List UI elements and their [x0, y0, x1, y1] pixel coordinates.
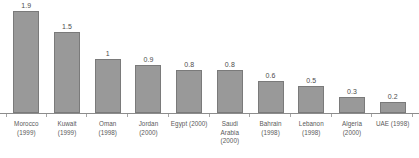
x-axis-category-label: Jordan(2000) [128, 120, 169, 158]
bar[interactable] [217, 70, 243, 113]
bar[interactable] [380, 102, 406, 113]
x-axis-tick [372, 114, 413, 118]
category-label-line: Egypt (2000) [170, 120, 209, 129]
plot-area: 1.91.510.90.80.80.60.50.30.2 [0, 0, 419, 113]
bar[interactable] [339, 97, 365, 113]
category-label-line: UAE (1998) [373, 120, 412, 129]
category-label-line: Lebanon [292, 120, 331, 129]
bar-value-label: 0.3 [347, 87, 357, 96]
bar-value-label: 0.5 [306, 76, 316, 85]
bar-slot: 0.9 [128, 0, 169, 113]
category-label-line: Algeria [333, 120, 372, 129]
bar-value-label: 1.9 [21, 1, 31, 10]
bar-value-label: 0.6 [266, 71, 276, 80]
bar-slot: 0.2 [372, 0, 413, 113]
bar-slot: 0.8 [169, 0, 210, 113]
bar-slot: 1 [87, 0, 128, 113]
bar-value-label: 1 [106, 49, 110, 58]
bar[interactable] [176, 70, 202, 113]
bar-value-label: 0.2 [388, 92, 398, 101]
bar[interactable] [95, 59, 121, 113]
x-axis-category-label: Bahrain(1998) [250, 120, 291, 158]
x-axis-tick [332, 114, 373, 118]
category-label-line: Saudi [211, 120, 250, 129]
category-label-line: (2000) [129, 129, 168, 138]
bar[interactable] [13, 11, 39, 113]
bar-slot: 0.3 [332, 0, 373, 113]
x-axis-category-label: Lebanon(1998) [291, 120, 332, 158]
x-axis-category-label: Algeria(2000) [332, 120, 373, 158]
bar-value-label: 0.8 [225, 60, 235, 69]
x-axis-category-label: Morocco(1999) [6, 120, 47, 158]
category-label-line: Arabia [211, 129, 250, 138]
bar-slot: 1.9 [6, 0, 47, 113]
x-axis-ticks [0, 114, 419, 118]
bar-slot: 1.5 [47, 0, 88, 113]
x-axis-tick [87, 114, 128, 118]
x-axis-tick [128, 114, 169, 118]
bar[interactable] [258, 81, 284, 113]
category-label-line: (1998) [292, 129, 331, 138]
category-label-line: (1998) [88, 129, 127, 138]
category-label-line: (2000) [333, 129, 372, 138]
category-label-line: (1999) [48, 129, 87, 138]
bar-value-label: 1.5 [62, 22, 72, 31]
bar-value-label: 0.8 [184, 60, 194, 69]
x-axis-tick [250, 114, 291, 118]
category-label-line: (1998) [251, 129, 290, 138]
bar[interactable] [298, 86, 324, 113]
x-axis-category-label: Kuwait(1999) [47, 120, 88, 158]
bar-slot: 0.8 [210, 0, 251, 113]
category-label-line: (2000) [211, 137, 250, 146]
category-label-line: Kuwait [48, 120, 87, 129]
category-label-line: Morocco [7, 120, 46, 129]
x-axis-category-label: Egypt (2000) [169, 120, 210, 158]
category-label-line: Bahrain [251, 120, 290, 129]
x-axis-category-labels: Morocco(1999)Kuwait(1999)Oman(1998)Jorda… [0, 120, 419, 158]
bar-slot: 0.5 [291, 0, 332, 113]
category-label-line: Oman [88, 120, 127, 129]
bar-slot: 0.6 [250, 0, 291, 113]
x-axis-category-label: UAE (1998) [372, 120, 413, 158]
x-axis-category-label: Oman(1998) [87, 120, 128, 158]
x-axis-tick [210, 114, 251, 118]
x-axis-tick [169, 114, 210, 118]
x-axis-category-label: SaudiArabia(2000) [210, 120, 251, 158]
bar-value-label: 0.9 [143, 55, 153, 64]
category-label-line: Jordan [129, 120, 168, 129]
x-axis-tick [47, 114, 88, 118]
x-axis-tick [6, 114, 47, 118]
bar-chart: 1.91.510.90.80.80.60.50.30.2 Morocco(199… [0, 0, 419, 158]
category-label-line: (1999) [7, 129, 46, 138]
bar[interactable] [135, 65, 161, 113]
bar[interactable] [54, 32, 80, 113]
x-axis-tick [291, 114, 332, 118]
